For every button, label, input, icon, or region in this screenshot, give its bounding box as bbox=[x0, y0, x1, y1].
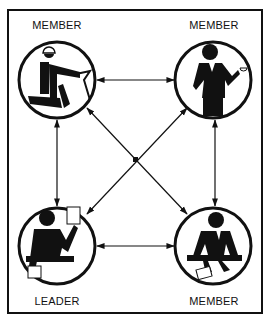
node-top-right bbox=[175, 42, 251, 118]
network-diagram bbox=[0, 0, 271, 322]
crossing-marker bbox=[133, 157, 138, 162]
node-bottom-left bbox=[19, 207, 95, 284]
node-top-left bbox=[19, 42, 95, 118]
node-bottom-right bbox=[175, 208, 251, 284]
